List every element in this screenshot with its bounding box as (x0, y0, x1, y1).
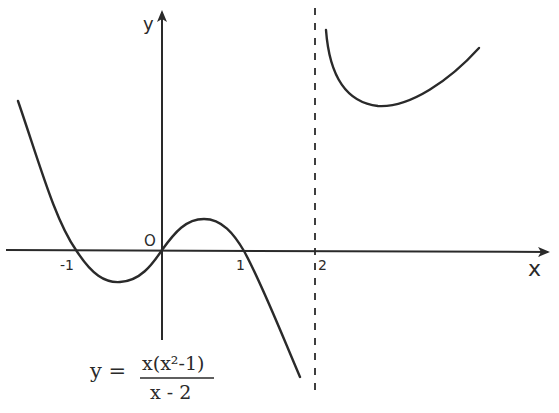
y-axis-label: y (143, 13, 154, 34)
equation-label: y = x(x²-1) x - 2 (89, 352, 214, 403)
origin-label: O (144, 232, 156, 250)
equation-numerator: x(x²-1) (142, 352, 204, 374)
equation-lhs: y = (89, 359, 126, 383)
function-graph: y x O -1 1 2 y = x(x²-1) x - 2 (0, 0, 559, 413)
x-tick-label-2: 2 (318, 257, 327, 273)
curve-branch-right (326, 30, 479, 106)
x-tick-label-minus-1: -1 (60, 257, 74, 273)
equation-denominator: x - 2 (150, 381, 191, 403)
x-axis (6, 250, 548, 252)
x-axis-label: x (528, 256, 541, 281)
curve-branch-left (18, 101, 300, 377)
x-tick-label-1: 1 (236, 257, 245, 273)
